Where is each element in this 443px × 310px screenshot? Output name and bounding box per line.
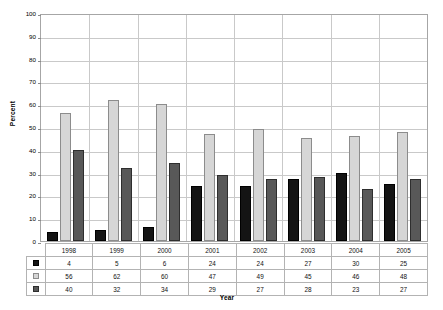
bar-2004-series-2 <box>349 136 360 241</box>
chart-figure: Percent 1009080706050403020100 199819992… <box>0 0 443 310</box>
table-cell-2005-series-2: 48 <box>380 270 428 283</box>
bar-group-2002 <box>234 15 282 241</box>
x-axis-title: Year <box>26 294 428 301</box>
bar-2003-series-1 <box>288 179 299 241</box>
bar-1998-series-1 <box>47 232 58 241</box>
bar-2003-series-2 <box>301 138 312 241</box>
bar-1998-series-2 <box>60 113 71 241</box>
bar-2002-series-2 <box>253 129 264 241</box>
legend-swatch-icon-series-1 <box>33 260 39 266</box>
table-header-row: 19981999200020012002200320042005 <box>27 244 428 257</box>
bar-2000-series-1 <box>143 227 154 241</box>
y-axis-tick-90: 90 <box>16 34 36 40</box>
table-cell-2002-series-2: 49 <box>236 270 284 283</box>
bar-group-2001 <box>186 15 234 241</box>
table-header-2003: 2003 <box>284 244 332 257</box>
table-cell-1998-series-2: 56 <box>45 270 93 283</box>
bar-2001-series-2 <box>204 134 215 241</box>
table-cell-1998-series-1: 4 <box>45 257 93 270</box>
data-table-container: 1998199920002001200220032004200545624242… <box>26 243 428 291</box>
bar-group-1998 <box>41 15 89 241</box>
y-axis-tick-labels: 1009080706050403020100 <box>16 14 36 242</box>
table-header-2005: 2005 <box>380 244 428 257</box>
bar-2000-series-2 <box>156 104 167 241</box>
y-axis-tick-50: 50 <box>16 125 36 131</box>
legend-swatch-cell-series-1 <box>27 257 46 270</box>
bar-1999-series-2 <box>108 100 119 241</box>
bar-2004-series-1 <box>336 173 347 241</box>
table-header-1998: 1998 <box>45 244 93 257</box>
table-cell-2004-series-2: 46 <box>332 270 380 283</box>
bar-group-1999 <box>89 15 137 241</box>
legend-swatch-cell-series-2 <box>27 270 46 283</box>
bar-2005-series-3 <box>410 179 421 241</box>
y-axis-tick-60: 60 <box>16 102 36 108</box>
table-header-2004: 2004 <box>332 244 380 257</box>
bar-2001-series-1 <box>191 186 202 241</box>
bar-group-2000 <box>138 15 186 241</box>
y-axis-tick-40: 40 <box>16 148 36 154</box>
bar-group-2005 <box>379 15 427 241</box>
table-row: 5662604749454648 <box>27 270 428 283</box>
table-cell-2001-series-2: 47 <box>188 270 236 283</box>
y-axis-tick-70: 70 <box>16 79 36 85</box>
table-header-2000: 2000 <box>141 244 189 257</box>
y-axis-tick-10: 10 <box>16 216 36 222</box>
legend-swatch-icon-series-3 <box>33 286 39 292</box>
table-header-1999: 1999 <box>93 244 141 257</box>
table-corner-cell <box>27 244 46 257</box>
table-cell-1999-series-1: 5 <box>93 257 141 270</box>
y-axis-title: Percent <box>9 84 16 144</box>
plot-area <box>40 14 428 242</box>
bar-group-2004 <box>331 15 379 241</box>
table-cell-2005-series-1: 25 <box>380 257 428 270</box>
table-cell-2001-series-1: 24 <box>188 257 236 270</box>
y-axis-tick-30: 30 <box>16 171 36 177</box>
table-cell-1999-series-2: 62 <box>93 270 141 283</box>
bar-2000-series-3 <box>169 163 180 241</box>
table-cell-2003-series-2: 45 <box>284 270 332 283</box>
bar-2002-series-3 <box>266 179 277 241</box>
bar-1999-series-3 <box>121 168 132 241</box>
table-row: 4562424273025 <box>27 257 428 270</box>
bar-1999-series-1 <box>95 230 106 241</box>
bar-2002-series-1 <box>240 186 251 241</box>
bar-2004-series-3 <box>362 189 373 241</box>
table-cell-2003-series-1: 27 <box>284 257 332 270</box>
bar-2005-series-1 <box>384 184 395 241</box>
table-cell-2000-series-2: 60 <box>141 270 189 283</box>
table-header-2001: 2001 <box>188 244 236 257</box>
bar-2001-series-3 <box>217 175 228 241</box>
legend-swatch-icon-series-2 <box>33 273 39 279</box>
data-table: 1998199920002001200220032004200545624242… <box>26 243 428 296</box>
table-header-2002: 2002 <box>236 244 284 257</box>
table-cell-2002-series-1: 24 <box>236 257 284 270</box>
y-axis-tick-20: 20 <box>16 193 36 199</box>
bar-1998-series-3 <box>73 150 84 241</box>
bar-groups <box>41 15 427 241</box>
y-axis-tick-80: 80 <box>16 57 36 63</box>
bar-2005-series-2 <box>397 132 408 241</box>
y-axis-tick-100: 100 <box>16 11 36 17</box>
table-cell-2004-series-1: 30 <box>332 257 380 270</box>
bar-2003-series-3 <box>314 177 325 241</box>
table-cell-2000-series-1: 6 <box>141 257 189 270</box>
bar-group-2003 <box>282 15 330 241</box>
